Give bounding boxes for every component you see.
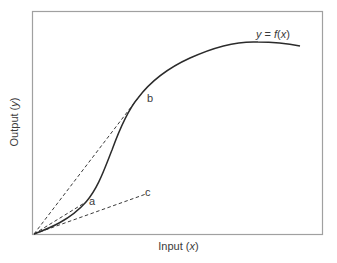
y-axis-label: Output (y) [8, 98, 20, 147]
point-label-c: c [145, 186, 151, 198]
y-axis-label-close: ) [8, 98, 20, 102]
point-label-b: b [147, 92, 153, 104]
production-curve [34, 42, 300, 234]
x-axis-label-close: ) [195, 240, 199, 252]
y-axis-label-var: y [8, 101, 20, 107]
plot-frame [33, 12, 323, 235]
production-function-diagram: y = f(x) b a c Input (x) Output (y) [0, 0, 337, 263]
y-axis-label-text: Output ( [8, 107, 20, 147]
curve-label: y = f(x) [256, 28, 290, 40]
curve-label-close-paren: ) [286, 28, 290, 40]
ray-to-b [34, 98, 138, 234]
x-axis-label: Input (x) [0, 240, 337, 252]
point-label-a: a [89, 195, 95, 207]
x-axis-label-text: Input ( [158, 240, 189, 252]
ray-to-a [34, 202, 86, 234]
curve-label-equals: = [262, 28, 275, 40]
